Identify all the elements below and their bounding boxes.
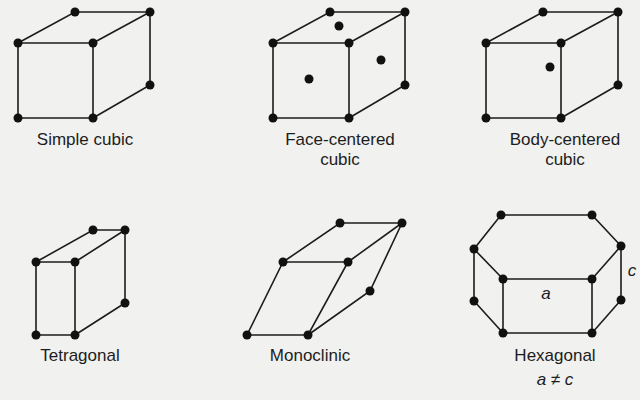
label-line: Monoclinic xyxy=(250,346,370,366)
label-line: Hexagonal xyxy=(500,346,610,366)
tetragonal-label: Tetragonal xyxy=(25,346,135,366)
face-centered-cubic-cell xyxy=(269,8,410,123)
label-line: cubic xyxy=(265,150,415,170)
tetragonal-cell xyxy=(32,226,130,340)
lattice-drawings xyxy=(0,0,640,400)
lattice-relation: a ≠ c xyxy=(500,370,610,390)
monoclinic-cell xyxy=(243,219,407,340)
label-line: Tetragonal xyxy=(25,346,135,366)
lattice-diagram: Simple cubic Face-centered cubic Body-ce… xyxy=(0,0,640,400)
hexagonal-c-annotation: c xyxy=(624,261,640,281)
hexagonal-label: Hexagonal a ≠ c xyxy=(500,346,610,390)
simple-cubic-label: Simple cubic xyxy=(15,130,155,150)
simple-cubic-cell xyxy=(14,8,155,123)
monoclinic-label: Monoclinic xyxy=(250,346,370,366)
label-line: cubic xyxy=(490,150,640,170)
body-centered-cubic-label: Body-centered cubic xyxy=(490,130,640,170)
face-centered-cubic-label: Face-centered cubic xyxy=(265,130,415,170)
body-centered-cubic-cell xyxy=(482,8,623,123)
hexagonal-a-annotation: a xyxy=(538,284,554,304)
label-line: Face-centered xyxy=(265,130,415,150)
label-line: Body-centered xyxy=(490,130,640,150)
hexagonal-cell xyxy=(470,211,626,338)
label-line: Simple cubic xyxy=(15,130,155,150)
